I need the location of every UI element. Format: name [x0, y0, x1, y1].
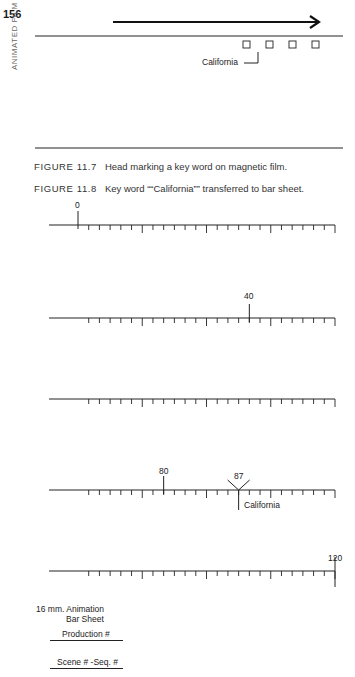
frame-label-80: 80 [159, 466, 168, 476]
marker-arm [228, 480, 239, 490]
bar-sheet-title-line2: Bar Sheet [66, 614, 104, 624]
frame-label-0: 0 [75, 200, 80, 210]
production-number-line [50, 640, 123, 641]
frame-label-87: 87 [234, 471, 243, 481]
frame-label-40: 40 [244, 291, 253, 301]
marker-arm [239, 480, 250, 490]
bar-sheet-title-line1: 16 mm. Animation [36, 604, 104, 614]
marker-label-california: California [244, 500, 280, 510]
production-number-label: Production # [62, 629, 110, 639]
scene-seq-line [50, 668, 123, 669]
bar-sheet-rulers [0, 0, 355, 677]
frame-label-120: 120 [328, 553, 342, 563]
scene-seq-label: Scene # -Seq. # [57, 657, 118, 667]
